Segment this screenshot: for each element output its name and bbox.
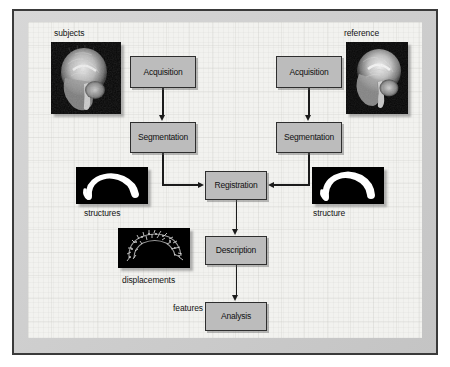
node-segmentation-left[interactable]: Segmentation [130,122,196,153]
node-label: Analysis [221,312,251,321]
edge-seg-right-drop [308,153,310,186]
node-label: Description [216,246,256,255]
node-label: Registration [215,181,258,190]
caption-features: features [173,303,203,313]
node-analysis[interactable]: Analysis [205,302,267,331]
figure-outer-frame: subjects reference structures structure … [12,9,438,355]
arrowhead-acq-right-to-seg-right [305,115,311,121]
node-label: Acquisition [144,68,183,77]
diagram-canvas: subjects reference structures structure … [28,22,422,338]
edge-acq-right-to-seg-right [308,88,310,116]
thumbnail-subjects-mri [51,42,121,114]
node-description[interactable]: Description [205,236,267,265]
caption-structure: structure [313,208,345,218]
node-label: Segmentation [138,133,188,142]
thumbnail-displacements-field [118,228,190,268]
edge-registration-to-description [236,200,238,230]
edge-seg-left-run [162,184,199,186]
thumbnail-reference-mri [346,42,408,114]
figure-page: subjects reference structures structure … [0,0,450,367]
caption-reference: reference [344,28,379,38]
edge-description-to-analysis [236,265,238,296]
edge-seg-right-run [274,184,310,186]
arrowhead-seg-left-to-registration [198,182,204,188]
node-acquisition-right[interactable]: Acquisition [276,56,342,88]
thumbnail-structure-mask [312,167,384,204]
node-segmentation-right[interactable]: Segmentation [276,122,342,153]
thumbnail-structures-mask [76,167,148,204]
arrowhead-seg-right-to-registration [268,182,274,188]
caption-displacements: displacements [122,275,175,285]
node-acquisition-left[interactable]: Acquisition [130,56,196,88]
node-label: Acquisition [290,68,329,77]
edge-acq-left-to-seg-left [162,88,164,116]
arrowhead-description-to-analysis [232,295,238,301]
caption-subjects: subjects [54,28,84,38]
node-label: Segmentation [284,133,334,142]
edge-seg-left-drop [162,153,164,186]
node-registration[interactable]: Registration [205,171,267,200]
arrowhead-acq-left-to-seg-left [159,115,165,121]
arrowhead-registration-to-description [232,229,238,235]
caption-structures: structures [84,208,120,218]
